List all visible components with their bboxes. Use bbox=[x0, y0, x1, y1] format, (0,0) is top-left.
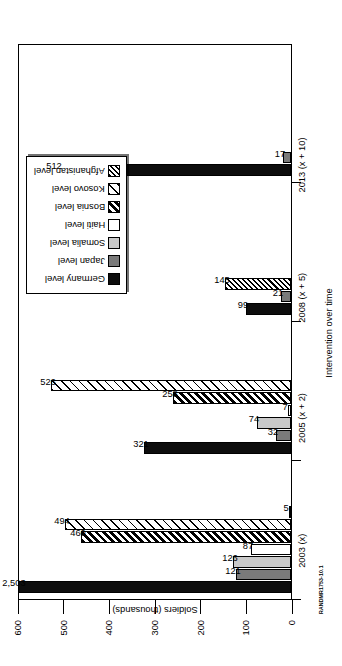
legend-swatch-icon bbox=[108, 219, 120, 231]
bar-chart-figure: RANDMR1753-10.1 Soldiers (thousands) Int… bbox=[0, 0, 342, 666]
x-axis-tick bbox=[292, 599, 301, 600]
legend-item-label: Germany level bbox=[45, 274, 105, 284]
x-axis-group-label: 2008 (x + 5) bbox=[297, 273, 307, 323]
chart-legend: Germany levelJapan levelSomalia levelHai… bbox=[26, 156, 127, 294]
y-axis-tick bbox=[200, 600, 201, 614]
bar bbox=[81, 532, 291, 544]
legend-item[interactable]: Kosovo level bbox=[52, 183, 120, 195]
legend-item[interactable]: Germany level bbox=[45, 273, 120, 285]
bar bbox=[18, 582, 291, 594]
bar-value-label: 7 bbox=[282, 403, 287, 412]
x-axis-tick bbox=[292, 460, 301, 461]
legend-item-label: Haiti level bbox=[65, 220, 105, 230]
y-axis-tick-label: 100 bbox=[241, 620, 251, 660]
legend-swatch-icon bbox=[108, 201, 120, 213]
legend-item-label: Afghanistan level bbox=[34, 166, 105, 176]
bar-value-label: 17 bbox=[275, 150, 285, 159]
bar-value-label: 21 bbox=[273, 289, 283, 298]
legend-swatch-icon bbox=[108, 255, 120, 267]
legend-item[interactable]: Japan level bbox=[58, 255, 120, 267]
x-axis-title: Intervention over time bbox=[324, 0, 334, 666]
y-axis-tick bbox=[292, 600, 293, 614]
y-axis-tick-label: 500 bbox=[59, 620, 69, 660]
y-axis-tick bbox=[246, 600, 247, 614]
bar bbox=[173, 393, 291, 405]
y-axis-tick bbox=[109, 600, 110, 614]
bar-value-label: 145 bbox=[214, 276, 230, 285]
bar-value-label: 2,503 bbox=[2, 579, 25, 588]
bar-value-label: 460 bbox=[70, 529, 86, 538]
bar bbox=[144, 443, 291, 455]
y-axis-tick-label: 400 bbox=[104, 620, 114, 660]
bar-value-label: 87 bbox=[243, 542, 253, 551]
x-axis-group-label: 2005 (x + 2) bbox=[297, 393, 307, 443]
x-axis-group-label: 2003 (x) bbox=[297, 534, 307, 568]
bar-value-label: 74 bbox=[249, 415, 259, 424]
y-axis-tick-label: 0 bbox=[287, 620, 297, 660]
y-axis-tick bbox=[155, 600, 156, 614]
y-axis-tick-label: 300 bbox=[150, 620, 160, 660]
bar bbox=[251, 544, 291, 556]
legend-swatch-icon bbox=[108, 237, 120, 249]
legend-item[interactable]: Haiti level bbox=[65, 219, 120, 231]
y-axis-tick bbox=[18, 600, 19, 614]
bar bbox=[233, 557, 291, 569]
legend-item-label: Japan level bbox=[58, 256, 105, 266]
legend-item-label: Kosovo level bbox=[52, 184, 105, 194]
bar-value-label: 512 bbox=[46, 162, 62, 171]
bar-value-label: 99 bbox=[238, 301, 248, 310]
bar-value-label: 526 bbox=[40, 378, 56, 387]
bar bbox=[289, 507, 291, 519]
figure-rotor: RANDMR1753-10.1 Soldiers (thousands) Int… bbox=[0, 0, 342, 666]
y-axis-tick bbox=[63, 600, 64, 614]
bar bbox=[65, 519, 291, 531]
bar-value-label: 494 bbox=[55, 517, 71, 526]
y-axis-tick-label: 200 bbox=[196, 620, 206, 660]
legend-swatch-icon bbox=[108, 165, 120, 177]
legend-swatch-icon bbox=[108, 183, 120, 195]
bar-value-label: 258 bbox=[162, 390, 178, 399]
bar-value-label: 32 bbox=[268, 428, 278, 437]
bar-value-label: 321 bbox=[134, 440, 150, 449]
legend-item[interactable]: Bosnia level bbox=[55, 201, 120, 213]
legend-swatch-icon bbox=[108, 273, 120, 285]
legend-item[interactable]: Somalia level bbox=[50, 237, 120, 249]
bar-value-label: 5 bbox=[283, 504, 288, 513]
bar bbox=[246, 304, 291, 316]
legend-item-label: Somalia level bbox=[50, 238, 105, 248]
x-axis-group-label: 2013 (x + 10) bbox=[297, 137, 307, 192]
bar bbox=[276, 430, 291, 442]
bar bbox=[288, 405, 291, 417]
legend-item-label: Bosnia level bbox=[55, 202, 105, 212]
bar-value-label: 121 bbox=[225, 567, 241, 576]
bar bbox=[236, 569, 291, 581]
y-axis-tick-label: 600 bbox=[13, 620, 23, 660]
bar-value-label: 126 bbox=[223, 554, 239, 563]
